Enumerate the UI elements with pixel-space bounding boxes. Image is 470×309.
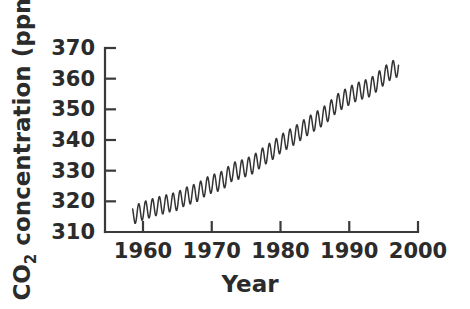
co2-concentration-line-chart: 310320330340350360370 196019701980199020… xyxy=(0,0,470,309)
x-tick-label: 1990 xyxy=(320,239,378,263)
y-tick-label: 340 xyxy=(51,128,95,152)
y-axis-title-subscript: 2 xyxy=(22,254,40,264)
y-axis-title-suffix: concentration (ppm) xyxy=(9,0,35,254)
y-tick-label: 320 xyxy=(51,189,95,213)
y-axis-title-prefix: CO xyxy=(9,264,35,300)
y-tick-label: 330 xyxy=(51,159,95,183)
y-tick-label: 360 xyxy=(51,67,95,91)
x-tick-label: 1970 xyxy=(183,239,241,263)
x-axis-title: Year xyxy=(220,271,279,297)
x-tick-label: 1960 xyxy=(114,239,172,263)
x-tick-label: 2000 xyxy=(389,239,447,263)
y-tick-label: 370 xyxy=(51,36,95,60)
y-tick-label: 350 xyxy=(51,97,95,121)
y-tick-label: 310 xyxy=(51,220,95,244)
x-tick-label: 1980 xyxy=(251,239,309,263)
